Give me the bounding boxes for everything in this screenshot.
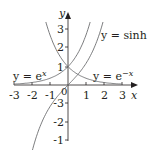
x-axis-label: x	[131, 89, 138, 102]
chart-svg: -3 -2 -1 0 1 2 3 -3 -2 -1 1 2 3 x y y = …	[0, 0, 148, 153]
x-tick-labels: -3 -2 -1 0 1 2 3	[9, 86, 126, 102]
svg-text:2: 2	[57, 41, 64, 54]
svg-text:3: 3	[119, 89, 126, 102]
label-exp-x: y = ex	[12, 69, 47, 83]
svg-text:3: 3	[57, 23, 64, 36]
svg-text:-2: -2	[27, 89, 38, 102]
sinh-chart: -3 -2 -1 0 1 2 3 -3 -2 -1 1 2 3 x y y = …	[0, 0, 148, 153]
x-axis-arrow-icon	[131, 82, 138, 88]
svg-text:-3: -3	[9, 89, 20, 102]
svg-text:0: 0	[61, 86, 67, 97]
svg-text:-2: -2	[53, 116, 64, 129]
svg-text:-1: -1	[53, 134, 64, 147]
y-axis-label: y	[58, 7, 66, 20]
label-exp-neg-x: y = e−x	[92, 69, 134, 83]
svg-text:1: 1	[83, 89, 90, 102]
label-sinh-x: y = sinhx	[100, 29, 148, 42]
svg-text:-3: -3	[53, 97, 64, 110]
y-axis-arrow-icon	[65, 12, 71, 19]
svg-text:2: 2	[101, 89, 108, 102]
svg-text:1: 1	[57, 61, 64, 74]
